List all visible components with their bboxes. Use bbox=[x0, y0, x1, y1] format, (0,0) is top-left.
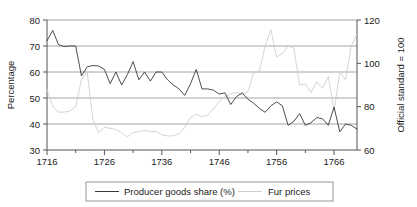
x-tick-label: 1756 bbox=[266, 156, 287, 167]
right-tick-label: 60 bbox=[364, 145, 375, 156]
left-tick-label: 30 bbox=[29, 145, 40, 156]
left-tick-label: 80 bbox=[29, 15, 40, 26]
left-tick-label: 40 bbox=[29, 119, 40, 130]
right-axis-title: Official standard = 100 bbox=[395, 37, 406, 132]
x-tick-label: 1716 bbox=[36, 156, 57, 167]
gridlines bbox=[47, 20, 357, 124]
bottom-axis: 171617261736174617561766 bbox=[36, 150, 357, 167]
x-tick-label: 1736 bbox=[151, 156, 172, 167]
right-tick-label: 100 bbox=[364, 58, 380, 69]
x-tick-label: 1766 bbox=[323, 156, 344, 167]
line-chart: 304050607080 Percentage 6080100120 Offic… bbox=[0, 0, 417, 207]
right-axis: 6080100120 Official standard = 100 bbox=[357, 15, 406, 156]
left-axis: 304050607080 Percentage bbox=[5, 15, 47, 156]
left-axis-title: Percentage bbox=[5, 61, 16, 110]
right-axis-ticks: 6080100120 bbox=[357, 15, 380, 156]
left-axis-ticks: 304050607080 bbox=[29, 15, 47, 156]
legend-label-producer-goods-share: Producer goods share (%) bbox=[124, 186, 235, 197]
chart-figure: 304050607080 Percentage 6080100120 Offic… bbox=[0, 0, 417, 207]
x-tick-label: 1726 bbox=[94, 156, 115, 167]
left-tick-label: 50 bbox=[29, 93, 40, 104]
right-tick-label: 120 bbox=[364, 15, 380, 26]
x-tick-label: 1746 bbox=[209, 156, 230, 167]
chart-legend: Producer goods share (%) Fur prices bbox=[86, 182, 333, 201]
bottom-axis-ticks: 171617261736174617561766 bbox=[36, 150, 344, 167]
left-tick-label: 70 bbox=[29, 41, 40, 52]
legend-label-fur-prices: Fur prices bbox=[268, 186, 310, 197]
right-tick-label: 80 bbox=[364, 101, 375, 112]
left-tick-label: 60 bbox=[29, 67, 40, 78]
